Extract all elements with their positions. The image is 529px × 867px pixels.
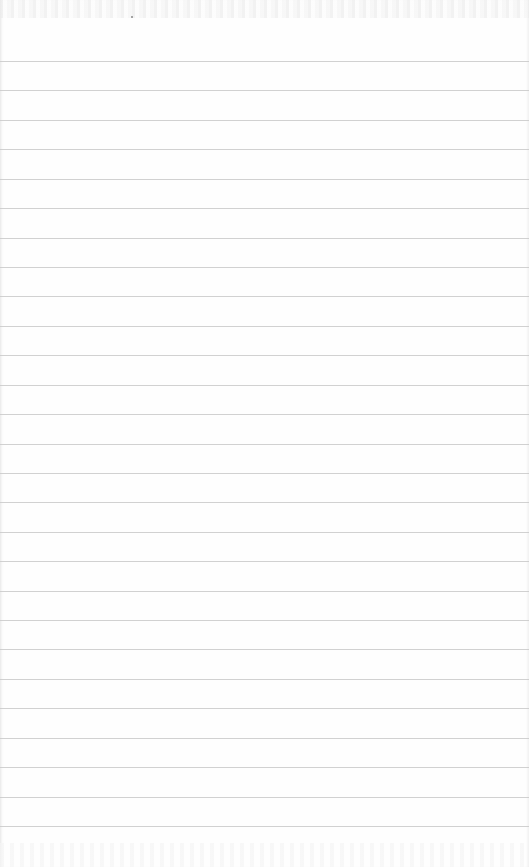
ruled-line	[0, 61, 529, 62]
ruled-line	[0, 208, 529, 209]
ruled-line	[0, 679, 529, 680]
ruled-line	[0, 120, 529, 121]
ruled-line	[0, 444, 529, 445]
ruled-line	[0, 620, 529, 621]
ruled-line	[0, 708, 529, 709]
ruled-line	[0, 238, 529, 239]
ruled-lines	[0, 0, 529, 867]
ruled-line	[0, 532, 529, 533]
ruled-line	[0, 385, 529, 386]
ruled-line	[0, 473, 529, 474]
ruled-line	[0, 414, 529, 415]
bottom-edge	[0, 843, 529, 867]
ruled-line	[0, 649, 529, 650]
ruled-line	[0, 502, 529, 503]
ruled-line	[0, 90, 529, 91]
ruled-line	[0, 591, 529, 592]
ruled-line	[0, 267, 529, 268]
ruled-line	[0, 738, 529, 739]
ruled-line	[0, 326, 529, 327]
ruled-line	[0, 296, 529, 297]
ruled-line	[0, 561, 529, 562]
ruled-line	[0, 767, 529, 768]
ruled-line	[0, 826, 529, 827]
ruled-line	[0, 355, 529, 356]
ruled-line	[0, 797, 529, 798]
ruled-line	[0, 149, 529, 150]
notepad-sheet	[0, 0, 529, 867]
ruled-line	[0, 179, 529, 180]
